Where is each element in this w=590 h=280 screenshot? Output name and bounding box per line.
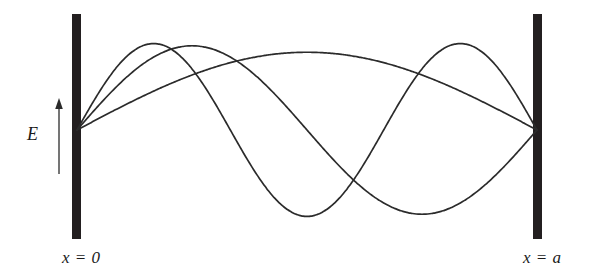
wave-curve-mode-1: [77, 52, 537, 130]
standing-wave-curves: [0, 0, 590, 280]
left-wall-position-label: x = 0: [62, 248, 101, 268]
field-direction-arrow: [48, 96, 70, 176]
right-wall-position-label: x = a: [523, 248, 562, 268]
wave-curve-mode-2: [77, 46, 537, 214]
field-axis-label: E: [27, 124, 38, 145]
standing-wave-figure: E x = 0 x = a: [0, 0, 590, 280]
